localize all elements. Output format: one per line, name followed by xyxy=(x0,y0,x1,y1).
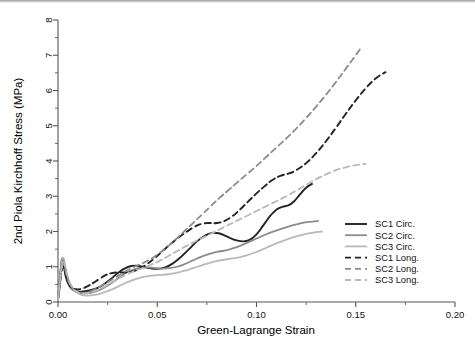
x-tick-label: 0.10 xyxy=(247,309,266,320)
legend-label-sc1-circ: SC1 Circ. xyxy=(375,219,415,229)
y-axis: 012345678 xyxy=(43,17,58,304)
legend-label-sc1-long: SC1 Long. xyxy=(375,253,419,263)
legend-label-sc2-long: SC2 Long. xyxy=(375,264,419,274)
y-tick-label: 4 xyxy=(43,158,54,163)
legend-label-sc3-circ: SC3 Circ. xyxy=(375,242,415,252)
y-tick-label: 1 xyxy=(43,264,54,269)
legend-label-sc3-long: SC3 Long. xyxy=(375,275,419,285)
y-tick-label: 6 xyxy=(43,88,54,93)
x-tick-label: 0.00 xyxy=(49,309,68,320)
series-lines xyxy=(58,47,386,300)
y-tick-label: 0 xyxy=(43,299,54,304)
y-tick-label: 7 xyxy=(43,53,54,58)
y-tick-label: 8 xyxy=(43,17,54,22)
legend-label-sc2-circ: SC2 Circ. xyxy=(375,231,415,241)
x-axis-title: Green-Lagrange Strain xyxy=(197,324,315,336)
x-tick-label: 0.15 xyxy=(347,309,366,320)
y-tick-label: 3 xyxy=(43,194,54,199)
x-tick-label: 0.20 xyxy=(446,309,465,320)
y-tick-label: 2 xyxy=(43,229,54,234)
line-chart: 012345678 0.000.050.100.150.20 2nd Piola… xyxy=(0,0,475,345)
chart-legend: SC1 Circ.SC2 Circ.SC3 Circ.SC1 Long.SC2 … xyxy=(345,219,419,285)
series-line-sc1-long xyxy=(58,72,386,300)
chart-page: 012345678 0.000.050.100.150.20 2nd Piola… xyxy=(0,0,475,345)
y-axis-title: 2nd Piola Kirchhoff Stress (MPa) xyxy=(12,78,24,245)
series-line-sc1-circ xyxy=(58,184,312,300)
x-axis: 0.000.050.100.150.20 xyxy=(49,302,465,320)
y-tick-label: 5 xyxy=(43,123,54,128)
x-tick-label: 0.05 xyxy=(148,309,167,320)
